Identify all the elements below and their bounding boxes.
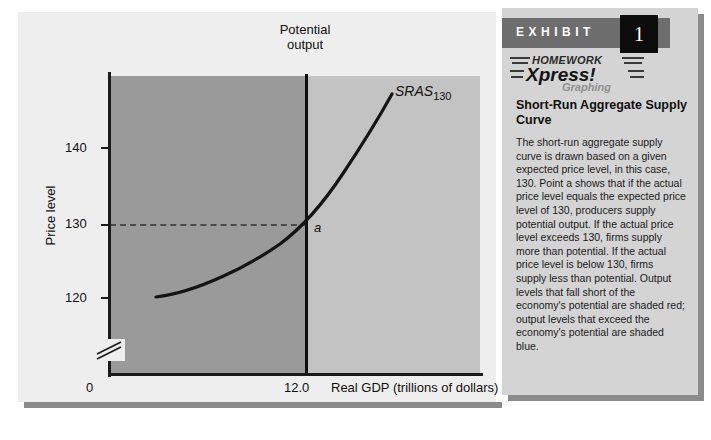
logo-speedline [622, 57, 644, 59]
exhibit-number-badge: 1 [620, 15, 658, 53]
logo-speedline [510, 70, 524, 72]
logo-speedline [624, 62, 642, 64]
exhibit-panel-shadow-right [698, 14, 704, 401]
homework-xpress-logo: HOMEWORK Xpress! Graphing [510, 54, 650, 90]
potential-output-label: Potential output [250, 22, 360, 52]
sras-label-subscript: 130 [433, 90, 451, 102]
sras-curve [18, 12, 496, 402]
exhibit-title: Short-Run Aggregate Supply Curve [516, 98, 688, 128]
sras-curve-label: SRAS130 [395, 83, 451, 102]
exhibit-panel: EXHIBIT 1 HOMEWORK Xpress! Graphing Shor… [502, 8, 698, 395]
exhibit-number: 1 [620, 23, 658, 46]
logo-speedline [510, 57, 530, 59]
chart-panel: Potential output SRAS130 a 140 130 120 0… [18, 12, 496, 402]
logo-speedline [630, 76, 644, 78]
exhibit-body-text: The short-run aggregate supply curve is … [516, 136, 686, 354]
chart-panel-shadow [24, 402, 502, 408]
x-tick-label-0: 0 [86, 380, 93, 395]
y-tick-label-120: 120 [65, 290, 87, 305]
point-a-label: a [314, 220, 321, 235]
sras-label-main: SRAS [395, 83, 433, 99]
exhibit-panel-shadow-bottom [508, 395, 704, 401]
x-axis-title: Real GDP (trillions of dollars) [331, 380, 498, 395]
logo-speedline [511, 76, 523, 78]
exhibit-page: Potential output SRAS130 a 140 130 120 0… [0, 0, 711, 440]
x-tick-label-12: 12.0 [284, 380, 309, 395]
potential-output-label-line2: output [250, 37, 360, 52]
y-tick-label-130: 130 [65, 216, 87, 231]
exhibit-header-word: EXHIBIT [516, 25, 595, 39]
logo-graphing-text: Graphing [562, 81, 611, 93]
logo-speedline [628, 70, 644, 72]
y-axis-title: Price level [43, 166, 58, 266]
y-tick-label-140: 140 [65, 140, 87, 155]
potential-output-label-line1: Potential [250, 22, 360, 37]
